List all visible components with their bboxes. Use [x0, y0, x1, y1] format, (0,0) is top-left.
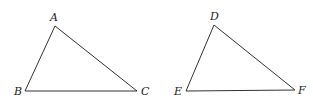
- vertex-label-b: B: [13, 85, 22, 98]
- vertex-label-a: A: [49, 11, 58, 24]
- vertex-label-c: C: [141, 85, 150, 98]
- triangles-diagram: A B C D E F: [0, 0, 313, 101]
- triangle-def: [186, 25, 295, 91]
- vertex-label-e: E: [173, 85, 182, 98]
- vertex-label-d: D: [209, 10, 219, 23]
- vertex-label-f: F: [297, 84, 306, 97]
- triangle-abc: [25, 26, 137, 91]
